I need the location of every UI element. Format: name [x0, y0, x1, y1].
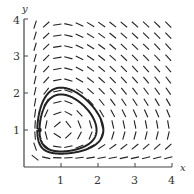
y-axis-label: y	[21, 3, 28, 14]
direction-field-chart: x y 1 2 3 4 1 2 3 4	[0, 0, 194, 194]
y-tick-3: 3	[13, 50, 20, 63]
x-tick-1: 1	[57, 174, 64, 187]
x-tick-3: 3	[131, 174, 138, 187]
axes	[24, 19, 172, 167]
x-tick-2: 2	[94, 174, 101, 187]
plot-area: x y 1 2 3 4 1 2 3 4	[0, 0, 194, 194]
x-axis-label: x	[180, 162, 186, 173]
x-tick-4: 4	[168, 174, 175, 187]
y-tick-2: 2	[13, 87, 20, 100]
start-point-marker	[37, 128, 41, 132]
y-tick-4: 4	[13, 14, 20, 27]
y-tick-1: 1	[13, 124, 20, 137]
